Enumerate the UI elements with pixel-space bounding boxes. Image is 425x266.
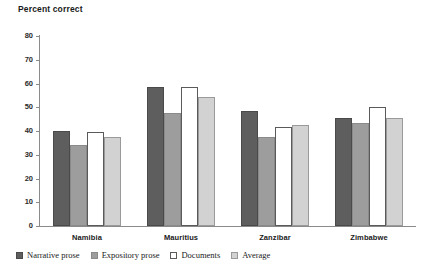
bar[interactable]: [352, 123, 369, 226]
y-tick-label: 0: [29, 221, 33, 230]
bar[interactable]: [104, 137, 121, 226]
legend-label: Average: [242, 250, 270, 260]
x-axis-label: Zimbabwe: [322, 233, 416, 242]
bar[interactable]: [292, 125, 309, 226]
x-axis-label: Zanzibar: [228, 233, 322, 242]
bar[interactable]: [369, 107, 386, 226]
legend-item[interactable]: Documents: [170, 250, 220, 260]
bar-group-zanzibar: Zanzibar: [228, 36, 322, 226]
bar[interactable]: [147, 87, 164, 226]
bar-chart: Percent correct 01020304050607080 Namibi…: [0, 0, 425, 266]
bar[interactable]: [87, 132, 104, 226]
y-tick-label: 30: [25, 150, 33, 159]
legend-label: Documents: [181, 250, 220, 260]
legend-label: Narrative prose: [27, 250, 80, 260]
bar-group-zimbabwe: Zimbabwe: [322, 36, 416, 226]
bar[interactable]: [70, 145, 87, 226]
legend-item[interactable]: Average: [231, 250, 270, 260]
bar[interactable]: [275, 127, 292, 226]
bars: [228, 36, 322, 226]
legend-item[interactable]: Expository prose: [91, 250, 160, 260]
y-tick-label: 40: [25, 126, 33, 135]
x-axis-label: Mauritius: [134, 233, 228, 242]
chart-title: Percent correct: [18, 4, 83, 14]
bar[interactable]: [181, 87, 198, 226]
y-tick-label: 60: [25, 79, 33, 88]
legend-item[interactable]: Narrative prose: [16, 250, 80, 260]
bar-group-mauritius: Mauritius: [134, 36, 228, 226]
y-tick-label: 70: [25, 55, 33, 64]
chart-legend: Narrative proseExpository proseDocuments…: [16, 250, 270, 260]
bar[interactable]: [53, 131, 70, 226]
legend-swatch-icon: [91, 252, 98, 259]
bar-groups: NamibiaMauritiusZanzibarZimbabwe: [40, 36, 416, 226]
bar[interactable]: [386, 118, 403, 226]
y-tick-label: 20: [25, 174, 33, 183]
y-tick-mark: [36, 226, 40, 227]
y-tick-label: 80: [25, 31, 33, 40]
bar[interactable]: [198, 97, 215, 226]
x-axis-label: Namibia: [40, 233, 134, 242]
bar[interactable]: [241, 111, 258, 226]
bar[interactable]: [164, 113, 181, 226]
legend-swatch-icon: [16, 252, 23, 259]
x-axis-line: [39, 226, 416, 227]
bars: [40, 36, 134, 226]
bar-group-namibia: Namibia: [40, 36, 134, 226]
bars: [322, 36, 416, 226]
legend-label: Expository prose: [102, 250, 160, 260]
legend-swatch-icon: [231, 252, 238, 259]
bar[interactable]: [335, 118, 352, 226]
y-tick-label: 10: [25, 197, 33, 206]
legend-swatch-icon: [170, 252, 177, 259]
y-tick-label: 50: [25, 102, 33, 111]
plot-area: 01020304050607080 NamibiaMauritiusZanzib…: [40, 36, 416, 226]
bars: [134, 36, 228, 226]
bar[interactable]: [258, 137, 275, 226]
